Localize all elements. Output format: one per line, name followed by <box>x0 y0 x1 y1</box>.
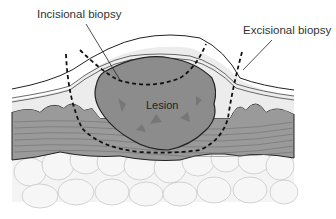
excisional-biopsy-label: Excisional biopsy <box>243 24 331 36</box>
lesion-label: Lesion <box>146 99 178 111</box>
excisional-leader <box>243 40 272 70</box>
biopsy-diagram: Incisional biopsy Excisional biopsy Lesi… <box>0 0 336 219</box>
incisional-biopsy-label: Incisional biopsy <box>37 8 121 20</box>
